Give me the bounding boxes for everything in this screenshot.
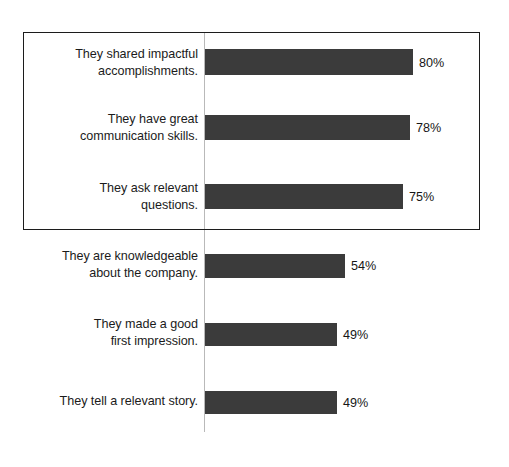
category-label: They made a good first impression. — [14, 316, 198, 349]
category-label-line1: They are knowledgeable — [14, 248, 198, 265]
category-label-line1: They shared impactful — [14, 46, 198, 63]
category-label-line1: They tell a relevant story. — [14, 393, 198, 410]
category-label: They ask relevant questions. — [14, 180, 198, 213]
bar-value-label: 54% — [351, 259, 376, 273]
bar-segment[interactable] — [205, 115, 410, 140]
category-label-line1: They made a good — [14, 316, 198, 333]
category-label-line2: accomplishments. — [14, 63, 198, 80]
category-label-line1: They ask relevant — [14, 180, 198, 197]
bar-segment[interactable] — [205, 254, 345, 278]
category-label-line2: about the company. — [14, 265, 198, 282]
category-axis-line — [204, 33, 205, 432]
bar-value-label: 49% — [343, 328, 368, 342]
category-label: They shared impactful accomplishments. — [14, 46, 198, 79]
bar-value-label: 75% — [409, 190, 434, 204]
bar-value-label: 80% — [419, 56, 444, 70]
category-label: They have great communication skills. — [14, 111, 198, 144]
bar-segment[interactable] — [205, 323, 337, 346]
bar-segment[interactable] — [205, 49, 413, 75]
bar-segment[interactable] — [205, 391, 337, 414]
category-label-line2: first impression. — [14, 333, 198, 350]
category-label-line2: communication skills. — [14, 128, 198, 145]
chart-canvas: They shared impactful accomplishments. 8… — [0, 0, 509, 467]
bar-value-label: 49% — [343, 396, 368, 410]
category-label: They are knowledgeable about the company… — [14, 248, 198, 281]
category-label: They tell a relevant story. — [14, 393, 198, 410]
bar-segment[interactable] — [205, 184, 403, 209]
category-label-line1: They have great — [14, 111, 198, 128]
category-label-line2: questions. — [14, 197, 198, 214]
bar-value-label: 78% — [416, 121, 441, 135]
